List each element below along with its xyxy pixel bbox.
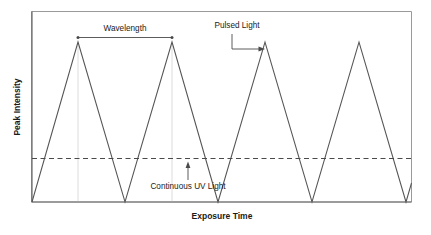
y-axis-title: Peak Intensity — [12, 78, 22, 135]
pulsed-light-label: Pulsed Light — [214, 21, 260, 30]
plot-area-background — [32, 12, 412, 203]
chart-figure: Wavelength Pulsed Light Continuous UV Li… — [0, 0, 431, 235]
wavelength-label: Wavelength — [104, 24, 147, 33]
chart-svg: Wavelength Pulsed Light Continuous UV Li… — [0, 0, 431, 235]
x-axis-title: Exposure Time — [192, 211, 253, 221]
continuous-uv-label: Continuous UV Light — [150, 182, 226, 191]
wavelength-left-endpoint-icon — [77, 36, 80, 39]
wavelength-right-endpoint-icon — [171, 36, 174, 39]
